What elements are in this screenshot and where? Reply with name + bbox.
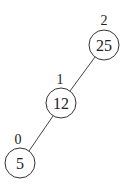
node-5-value: 5 xyxy=(16,155,24,172)
tree-svg: 25 2 12 1 5 0 xyxy=(0,0,127,185)
edge-12-5 xyxy=(29,116,53,151)
tree-diagram: 25 2 12 1 5 0 xyxy=(0,0,127,185)
edge-25-12 xyxy=(70,57,95,91)
node-25-value: 25 xyxy=(96,37,112,54)
node-5-height-label: 0 xyxy=(15,132,22,147)
node-25-height-label: 2 xyxy=(101,13,108,28)
node-12-height-label: 1 xyxy=(57,72,64,87)
node-12-value: 12 xyxy=(53,95,69,112)
